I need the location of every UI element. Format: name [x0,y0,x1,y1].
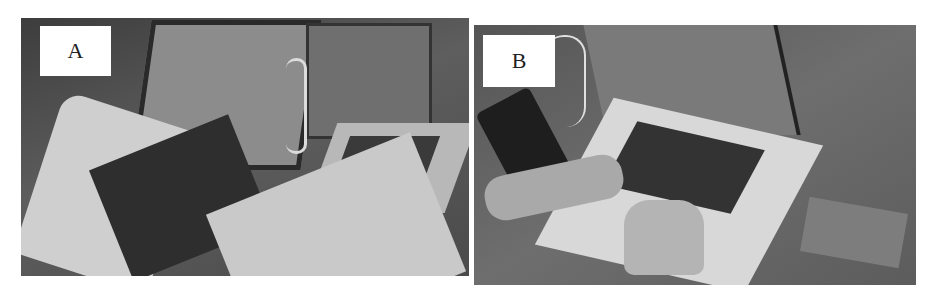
right-hand [624,200,704,275]
photo-panel-a: A [21,18,469,276]
panel-label-b: B [483,35,555,87]
cable [286,58,307,154]
panel-label-a: A [40,26,111,76]
laptop-screen [306,23,432,139]
photo-panel-b: B [474,25,916,285]
